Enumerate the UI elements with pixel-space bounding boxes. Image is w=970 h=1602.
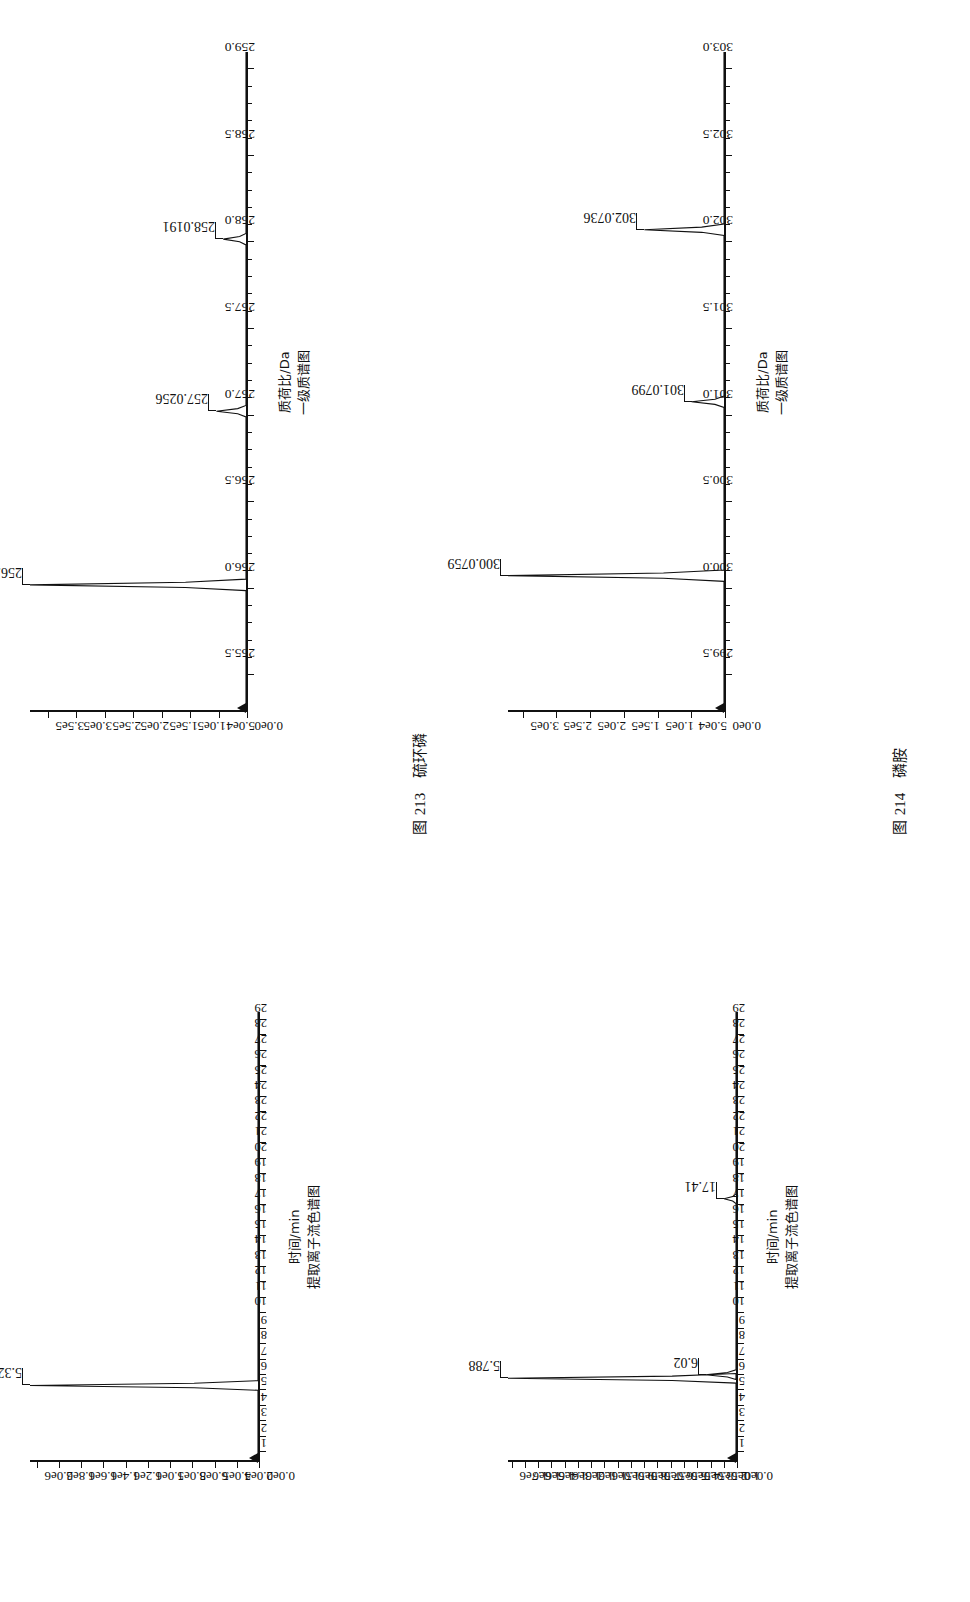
peak-label: 5.788: [469, 1358, 501, 1372]
x-axis-tick: [260, 1328, 266, 1329]
x-axis-tick: [726, 415, 732, 416]
y-axis-tick-label: 2.0e5: [598, 720, 627, 733]
x-axis-title-line1: 时间/min: [762, 1185, 781, 1289]
x-axis-tick: [260, 1235, 266, 1236]
peak-leader-line: [208, 394, 216, 411]
y-axis-tick: [691, 712, 692, 718]
x-axis-tick: [738, 1065, 744, 1066]
x-axis-tick: [738, 1389, 744, 1390]
peak-label: 301.0799: [631, 382, 684, 396]
x-axis-minor-tick: [726, 311, 730, 312]
x-axis-minor-tick: [726, 432, 730, 433]
x-axis-minor-tick: [726, 207, 730, 208]
x-axis-tick-label: 301.0: [703, 387, 733, 401]
y-axis-tick: [190, 712, 191, 718]
x-axis-tick: [738, 1266, 744, 1267]
peak-label: 300.0759: [448, 556, 501, 570]
x-axis-tick: [738, 1328, 744, 1329]
x-axis-minor-tick: [248, 553, 252, 554]
x-axis-minor-tick: [248, 640, 252, 641]
x-axis-tick: [738, 1420, 744, 1421]
x-axis-minor-tick: [726, 553, 730, 554]
x-axis-minor-tick: [248, 570, 252, 571]
x-axis-tick: [738, 1158, 744, 1159]
caption-compound-name: 硫环磷: [411, 733, 429, 778]
x-axis-minor-tick: [248, 207, 252, 208]
x-axis-tick: [260, 1451, 266, 1452]
x-axis-minor-tick: [248, 276, 252, 277]
x-axis-minor-tick: [726, 640, 730, 641]
x-axis-minor-tick: [248, 363, 252, 364]
figure-214-caption: 图 214 磷胺: [888, 748, 909, 835]
x-axis-tick: [738, 1204, 744, 1205]
x-axis-minor-tick: [248, 86, 252, 87]
x-axis-tick: [260, 1142, 266, 1143]
x-axis-minor-tick: [726, 536, 730, 537]
x-axis-tick: [738, 1081, 744, 1082]
x-axis-minor-tick: [726, 103, 730, 104]
y-axis-tick: [565, 1462, 566, 1468]
y-axis-tick-label: 2.0e5: [141, 720, 170, 733]
figure-213-mass-spectrum-block: 质荷比/Da 一级质谱图 0.0e05.0e41.0e51.5e52.0e52.…: [22, 40, 332, 830]
x-axis-tick-label: 9: [739, 1313, 745, 1326]
x-axis-tick: [260, 1158, 266, 1159]
chromatogram-trace: [30, 1012, 258, 1460]
x-axis-minor-tick: [248, 380, 252, 381]
mass-spectrum-trace: [508, 52, 724, 710]
x-axis-title: 时间/min 提取离子流色谱图: [284, 1185, 322, 1289]
x-axis-tick: [248, 674, 254, 675]
x-axis-title-line1: 时间/min: [284, 1185, 303, 1289]
x-axis-tick: [738, 1374, 744, 1375]
x-axis-tick-label: 1: [261, 1437, 267, 1450]
y-axis-tick: [711, 1462, 712, 1468]
x-axis-title: 质荷比/Da 一级质谱图: [274, 350, 312, 415]
y-axis-tick: [538, 1462, 539, 1468]
x-axis-tick: [260, 1189, 266, 1190]
x-axis-tick: [738, 1359, 744, 1360]
x-axis-tick: [260, 1297, 266, 1298]
x-axis-tick-label: 6: [261, 1359, 267, 1372]
x-axis-tick: [260, 1312, 266, 1313]
x-axis-tick: [738, 1250, 744, 1251]
x-axis-minor-tick: [726, 622, 730, 623]
origin-marker-arrow: [249, 1453, 258, 1463]
x-axis-tick-label: 6: [739, 1359, 745, 1372]
origin-marker-arrow: [715, 703, 724, 713]
x-axis-minor-tick: [726, 345, 730, 346]
x-axis-tick-label: 259.0: [225, 41, 255, 55]
y-axis-tick: [148, 1462, 149, 1468]
x-axis-minor-tick: [726, 138, 730, 139]
x-axis-minor-tick: [726, 224, 730, 225]
y-axis-tick: [590, 712, 591, 718]
x-axis-tick-label: 5: [261, 1375, 267, 1388]
x-axis-minor-tick: [726, 449, 730, 450]
x-axis-tick: [248, 241, 254, 242]
peak-leader-line: [500, 559, 508, 576]
y-axis-tick: [697, 1462, 698, 1468]
x-axis-minor-tick: [726, 172, 730, 173]
peak-label: 6.02: [673, 1355, 698, 1369]
x-axis-minor-tick: [248, 449, 252, 450]
y-axis-tick: [724, 1462, 725, 1468]
caption-number: 213: [412, 793, 428, 816]
y-axis-tick: [624, 712, 625, 718]
x-axis-tick: [248, 328, 254, 329]
x-axis-tick-label: 4: [739, 1390, 745, 1403]
x-axis-tick: [738, 1189, 744, 1190]
x-axis-tick-label: 300.0: [703, 560, 733, 574]
x-axis-tick-label: 257.0: [225, 387, 255, 401]
x-axis-minor-tick: [248, 103, 252, 104]
x-axis-tick-label: 5: [739, 1375, 745, 1388]
x-axis-tick: [738, 1343, 744, 1344]
x-axis-minor-tick: [248, 224, 252, 225]
x-axis-minor-tick: [248, 588, 252, 589]
y-axis-tick: [658, 712, 659, 718]
x-axis-tick-label: 256.5: [225, 474, 255, 488]
x-axis-tick-label: 8: [739, 1329, 745, 1342]
peak-label: 257.0256: [156, 391, 209, 405]
origin-marker-arrow: [237, 703, 246, 713]
x-axis-minor-tick: [726, 86, 730, 87]
peak-leader-line: [22, 1368, 30, 1385]
x-axis-tick-label: 258.5: [225, 127, 255, 141]
y-axis-tick: [48, 712, 49, 718]
